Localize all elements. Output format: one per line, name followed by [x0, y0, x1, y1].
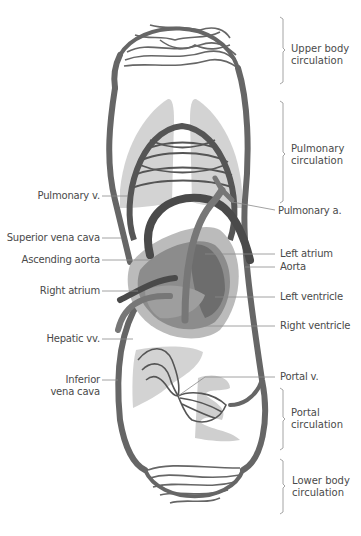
label-inferior-vena-cava: Inferior vena cava	[0, 374, 100, 398]
label-inferior-vena-cava-line2: vena cava	[0, 386, 100, 398]
label-hepatic-vv: Hepatic vv.	[0, 333, 100, 345]
group-upper-body-circulation: Upper body circulation	[291, 43, 349, 67]
label-superior-vena-cava: Superior vena cava	[0, 232, 100, 244]
label-left-ventricle: Left ventricle	[280, 291, 343, 303]
group-lower-body-line2: circulation	[292, 487, 350, 499]
label-right-ventricle: Right ventricle	[280, 320, 350, 332]
label-left-atrium: Left atrium	[280, 248, 333, 260]
upper-capillary-bed	[124, 25, 238, 68]
label-aorta: Aorta	[280, 261, 306, 273]
group-upper-body-line2: circulation	[291, 55, 349, 67]
label-ascending-aorta: Ascending aorta	[0, 254, 100, 266]
label-right-atrium: Right atrium	[0, 285, 100, 297]
circulatory-diagram	[0, 0, 361, 536]
group-pulmonary-line1: Pulmonary	[291, 143, 344, 155]
group-portal-line1: Portal	[291, 407, 343, 419]
group-portal-circulation: Portal circulation	[291, 407, 343, 431]
group-portal-line2: circulation	[291, 419, 343, 431]
group-pulmonary-line2: circulation	[291, 155, 344, 167]
label-portal-v: Portal v.	[280, 371, 318, 383]
label-pulmonary-v: Pulmonary v.	[20, 190, 100, 202]
group-upper-body-line1: Upper body	[291, 43, 349, 55]
label-inferior-vena-cava-line1: Inferior	[0, 374, 100, 386]
label-pulmonary-a: Pulmonary a.	[278, 205, 341, 217]
group-pulmonary-circulation: Pulmonary circulation	[291, 143, 344, 167]
group-lower-body-line1: Lower body	[292, 475, 350, 487]
group-lower-body-circulation: Lower body circulation	[292, 475, 350, 499]
